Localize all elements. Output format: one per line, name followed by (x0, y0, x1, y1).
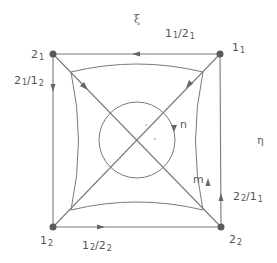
vertex-dot-top-right (217, 51, 224, 58)
arrow-curve-m-icon (206, 178, 211, 186)
edge-right (220, 54, 221, 227)
center-mark (154, 138, 156, 140)
axis-label-eta: η (257, 134, 264, 147)
edge-label-left: 21/12 (14, 74, 44, 88)
edge-label-bottom: 12/22 (82, 239, 112, 253)
axis-label-xi: ξ (134, 13, 140, 26)
arrow-top-left-icon (132, 52, 140, 57)
vertex-dot-top-left (50, 51, 57, 58)
arrow-bottom-right-icon (97, 225, 105, 230)
arrow-circle-n-icon (171, 125, 177, 132)
diagram-canvas: ξ η 21 11 22 12 11/21 21/12 12/22 22/11 … (0, 0, 277, 263)
vertex-label-bottom-right: 22 (229, 233, 242, 247)
arrow-right-up-icon (219, 193, 224, 201)
vertex-label-top-right: 11 (232, 41, 245, 55)
vertex-dot-bottom-right (218, 224, 225, 231)
edge-label-top: 11/21 (165, 27, 195, 41)
edge-label-right: 22/11 (233, 190, 263, 204)
arrow-left-down-icon (51, 84, 56, 92)
vertex-label-top-left: 21 (31, 48, 44, 62)
vertex-dot-bottom-left (50, 224, 57, 231)
loop-label-m: m (193, 173, 204, 186)
vertex-label-bottom-left: 12 (40, 234, 53, 248)
arrow-diagonal-tr-icon (186, 80, 193, 88)
center-mark (145, 124, 147, 126)
loop-label-n: n (180, 118, 187, 131)
